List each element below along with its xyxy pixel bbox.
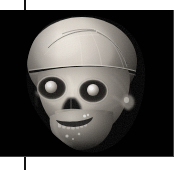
skull-render-svg <box>0 10 174 157</box>
ct-skull-volume-rendering <box>0 10 174 157</box>
figure-page <box>0 0 182 170</box>
figure-image-panel <box>0 10 174 157</box>
